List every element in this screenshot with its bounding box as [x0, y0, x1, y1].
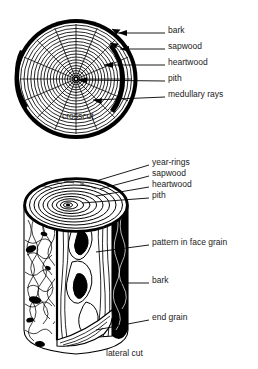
lateral-label-bark: bark: [152, 275, 169, 285]
crosscut-label-sapwood: sapwood: [168, 41, 202, 51]
crosscut-diagram: [15, 19, 166, 139]
crosscut-pith: [73, 76, 78, 81]
crosscut-label-bark: bark: [168, 25, 185, 35]
top-face-pith: [66, 204, 70, 206]
crosscut-caption: crosscut: [62, 111, 94, 121]
lateral-caption: lateral cut: [106, 348, 143, 358]
lateral-label-pattern-in-face-grain: pattern in face grain: [152, 237, 227, 247]
lateral-label-heartwood: heartwood: [152, 179, 192, 189]
bark-texture-right: [112, 206, 128, 341]
lateral-label-sapwood: sapwood: [152, 168, 186, 178]
wood-anatomy-figure: [0, 0, 258, 369]
crosscut-label-heartwood: heartwood: [168, 57, 208, 67]
lateral-label-year-rings: year-rings: [152, 157, 190, 167]
lateral-label-pith: pith: [152, 190, 166, 200]
lateral-cut-diagram: [24, 165, 149, 354]
crosscut-label-medullary-rays: medullary rays: [168, 89, 223, 99]
lateral-label-end-grain: end grain: [152, 312, 187, 322]
crosscut-label-pith: pith: [168, 73, 182, 83]
